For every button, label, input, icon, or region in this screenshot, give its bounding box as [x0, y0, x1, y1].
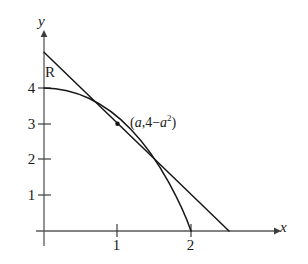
y-tick-label-3: 3 — [25, 117, 38, 132]
y-axis-label: y — [38, 14, 45, 29]
parabola-curve — [44, 88, 191, 231]
region-label-r: R — [45, 65, 55, 80]
plot-canvas — [0, 0, 308, 264]
x-tick-label-1: 1 — [110, 238, 123, 253]
minus-sign: − — [152, 115, 160, 130]
tangency-point-marker — [115, 122, 119, 126]
y-tick-label-2: 2 — [25, 152, 38, 167]
paren-close: ) — [172, 115, 177, 130]
tangent-line-figure: y x 4 3 2 1 1 2 R (a,4−a2) — [0, 0, 308, 264]
x-tick-label-2: 2 — [184, 238, 197, 253]
tangency-point-label: (a,4−a2) — [130, 116, 176, 130]
x-axis — [36, 228, 281, 235]
y-axis — [41, 30, 48, 246]
variable-a-first: a — [135, 115, 142, 130]
tangent-line — [44, 52, 229, 231]
x-axis-label: x — [280, 220, 287, 235]
y-tick-label-4: 4 — [25, 81, 38, 96]
y-tick-label-1: 1 — [25, 188, 38, 203]
